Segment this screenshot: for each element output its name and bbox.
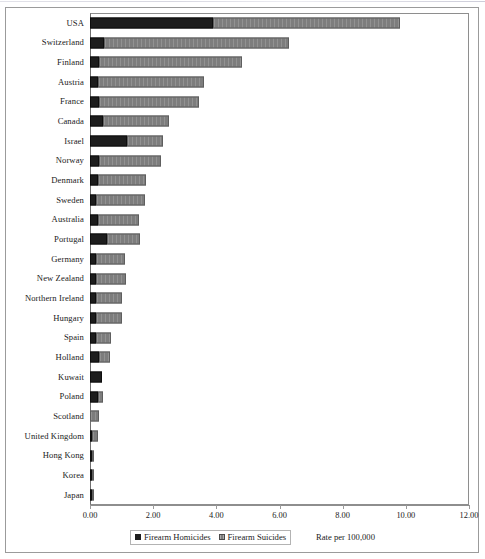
bar-segment-homicides (90, 175, 98, 186)
bar-segment-homicides (90, 17, 213, 28)
stacked-bar (90, 37, 289, 48)
bar-segment-suicides (92, 430, 98, 441)
stacked-bar (90, 194, 145, 205)
bar-row: Switzerland (6, 33, 469, 53)
x-axis-tick-label: 8.00 (335, 511, 350, 520)
x-axis-title: Rate per 100,000 (316, 532, 375, 542)
bar-track (90, 485, 469, 505)
x-axis-tick (469, 505, 470, 509)
category-label-finland: Finland (6, 58, 90, 67)
x-axis-tick (153, 505, 154, 509)
category-label-new-zealand: New Zealand (6, 274, 90, 283)
bar-segment-suicides (96, 273, 126, 284)
bar-row: Norway (6, 151, 469, 171)
bar-row: Poland (6, 387, 469, 407)
bar-row: Kuwait (6, 367, 469, 387)
stacked-bar (90, 411, 99, 422)
bar-row: Korea (6, 465, 469, 485)
stacked-bar (90, 214, 139, 225)
bar-segment-suicides (104, 37, 289, 48)
stacked-bar (90, 57, 242, 68)
category-label-northern-ireland: Northern Ireland (6, 294, 90, 303)
stacked-bar (90, 234, 140, 245)
bar-segment-suicides (213, 17, 399, 28)
bar-segment-suicides (96, 194, 145, 205)
category-label-denmark: Denmark (6, 176, 90, 185)
category-label-japan: Japan (6, 491, 90, 500)
bar-row: Scotland (6, 406, 469, 426)
stacked-bar (90, 352, 110, 363)
category-label-united-kingdom: United Kingdom (6, 432, 90, 441)
bar-track (90, 131, 469, 151)
category-label-hungary: Hungary (6, 314, 90, 323)
bar-track (90, 465, 469, 485)
bar-segment-homicides (90, 37, 104, 48)
bar-track (90, 406, 469, 426)
bar-segment-suicides (99, 96, 199, 107)
bar-segment-homicides (90, 234, 107, 245)
bar-row: Spain (6, 328, 469, 348)
category-label-france: France (6, 97, 90, 106)
stacked-bar (90, 450, 94, 461)
bar-segment-suicides (98, 391, 103, 402)
bar-segment-homicides (90, 57, 99, 68)
bar-segment-suicides (98, 214, 139, 225)
bar-row: Northern Ireland (6, 288, 469, 308)
chart-legend: Firearm HomicidesFirearm Suicides (130, 530, 291, 545)
bar-track (90, 151, 469, 171)
figure-frame: USASwitzerlandFinlandAustriaFranceCanada… (5, 7, 479, 553)
stacked-bar (90, 175, 146, 186)
stacked-bar (90, 293, 122, 304)
category-label-israel: Israel (6, 137, 90, 146)
x-axis-tick (280, 505, 281, 509)
x-axis-tick (343, 505, 344, 509)
bar-row: Austria (6, 72, 469, 92)
stacked-bar (90, 17, 400, 28)
category-label-germany: Germany (6, 255, 90, 264)
stacked-bar (90, 273, 126, 284)
legend-swatch-suicide-icon (219, 534, 225, 540)
bar-track (90, 308, 469, 328)
x-axis-tick (90, 505, 91, 509)
bar-track (90, 426, 469, 446)
category-label-norway: Norway (6, 156, 90, 165)
bar-segment-suicides (90, 411, 99, 422)
bar-track (90, 367, 469, 387)
stacked-bar (90, 116, 169, 127)
bar-row: Hong Kong (6, 446, 469, 466)
bar-track (90, 328, 469, 348)
bar-segment-suicides (98, 175, 146, 186)
category-label-switzerland: Switzerland (6, 38, 90, 47)
legend-label: Firearm Suicides (228, 532, 286, 542)
bar-track (90, 72, 469, 92)
bar-track (90, 210, 469, 230)
bar-row: Israel (6, 131, 469, 151)
stacked-bar (90, 391, 103, 402)
category-label-holland: Holland (6, 353, 90, 362)
category-label-spain: Spain (6, 333, 90, 342)
bar-segment-suicides (127, 135, 163, 146)
bar-track (90, 111, 469, 131)
bar-segment-suicides (99, 155, 161, 166)
bar-track (90, 190, 469, 210)
bar-row: New Zealand (6, 269, 469, 289)
bar-track (90, 446, 469, 466)
stacked-bar (90, 332, 111, 343)
legend-label: Firearm Homicides (144, 532, 211, 542)
bar-rows: USASwitzerlandFinlandAustriaFranceCanada… (6, 13, 469, 505)
x-axis-tick-label: 4.00 (209, 511, 224, 520)
bar-segment-suicides (99, 57, 241, 68)
x-axis-tick (406, 505, 407, 509)
bar-segment-suicides (99, 352, 109, 363)
bar-segment-homicides (90, 155, 99, 166)
legend-swatch-homicide-icon (135, 534, 141, 540)
bar-row: Germany (6, 249, 469, 269)
category-label-portugal: Portugal (6, 235, 90, 244)
bar-segment-homicides (90, 76, 98, 87)
category-label-australia: Australia (6, 215, 90, 224)
stacked-bar (90, 135, 163, 146)
stacked-bar (90, 430, 98, 441)
category-label-scotland: Scotland (6, 412, 90, 421)
bar-row: Holland (6, 347, 469, 367)
x-axis-tick-label: 2.00 (146, 511, 161, 520)
